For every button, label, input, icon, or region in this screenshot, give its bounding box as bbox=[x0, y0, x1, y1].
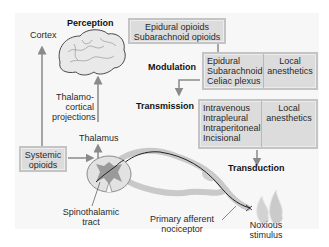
agent-line-1: Local bbox=[264, 56, 316, 66]
cortex-label: Cortex bbox=[30, 30, 57, 40]
route-epidural: Epidural bbox=[207, 56, 263, 66]
afferent-pointer-icon bbox=[222, 206, 236, 220]
transmission-routes: Intravenous Intrapleural Intraperitoneal… bbox=[203, 103, 261, 147]
nerve-fiber-icon bbox=[112, 151, 252, 211]
route-intraperitoneal: Intraperitoneal bbox=[203, 123, 261, 133]
systemic-opioids-text: Systemic opioids bbox=[21, 150, 65, 170]
transduction-heading: Transduction bbox=[228, 163, 285, 173]
route-celiac-plexus: Celiac plexus bbox=[207, 76, 263, 86]
modulation-heading: Modulation bbox=[148, 62, 196, 72]
spinothalamic-label-2: tract bbox=[60, 217, 122, 227]
agent-line-1: Local bbox=[262, 103, 316, 113]
route-subarachnoid: Subarachnoid bbox=[207, 66, 263, 76]
modulation-to-transmission-arrow-icon bbox=[179, 80, 200, 92]
route-intravenous: Intravenous bbox=[203, 103, 261, 113]
epidural-opioids-box: Epidural opioids Subarachnoid opioids bbox=[128, 18, 226, 44]
flame-icon bbox=[257, 190, 283, 224]
modulation-box: Epidural Subarachnoid Celiac plexus Loca… bbox=[202, 52, 318, 90]
thalamocortical-label-1: Thalamo- bbox=[52, 92, 94, 102]
perception-heading: Perception bbox=[67, 18, 114, 28]
agent-line-2: anesthetics bbox=[262, 113, 316, 123]
noxious-label-1: Noxious bbox=[246, 220, 286, 230]
systemic-line-2: opioids bbox=[21, 160, 65, 170]
thalamocortical-label-2: cortical bbox=[52, 102, 94, 112]
brain-icon bbox=[59, 30, 125, 75]
epidural-opioids-text: Epidural opioids Subarachnoid opioids bbox=[130, 22, 224, 42]
thalamocortical-label-3: projections bbox=[52, 112, 94, 122]
transmission-agent: Local anesthetics bbox=[262, 103, 316, 147]
top-box-line-1: Epidural opioids bbox=[130, 22, 224, 32]
modulation-routes: Epidural Subarachnoid Celiac plexus bbox=[207, 56, 263, 88]
transmission-heading: Transmission bbox=[136, 101, 194, 111]
route-incisional: Incisional bbox=[203, 133, 261, 143]
modulation-agent: Local anesthetics bbox=[264, 56, 316, 88]
afferent-label-1: Primary afferent bbox=[140, 214, 224, 224]
agent-line-2: anesthetics bbox=[264, 66, 316, 76]
thalamus-label: Thalamus bbox=[79, 133, 119, 143]
spinothalamic-label-1: Spinothalamic bbox=[60, 207, 122, 217]
spinal-cord-cross-section-icon bbox=[87, 156, 131, 192]
transmission-box: Intravenous Intrapleural Intraperitoneal… bbox=[198, 99, 318, 149]
systemic-line-1: Systemic bbox=[21, 150, 65, 160]
noxious-label-2: stimulus bbox=[246, 230, 286, 240]
afferent-label-2: nociceptor bbox=[140, 224, 224, 234]
route-intrapleural: Intrapleural bbox=[203, 113, 261, 123]
systemic-opioids-box: Systemic opioids bbox=[19, 146, 67, 172]
top-box-line-2: Subarachnoid opioids bbox=[130, 32, 224, 42]
